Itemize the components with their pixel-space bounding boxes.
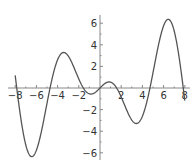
y-tick-label: 2 <box>91 61 97 72</box>
x-tick-label: −2 <box>71 90 86 101</box>
y-tick-label: 6 <box>91 18 97 29</box>
y-tick-label: 4 <box>91 40 97 51</box>
x-tick-label: 6 <box>160 90 166 101</box>
y-tick-label: −6 <box>82 148 97 159</box>
y-tick-label: −2 <box>82 105 97 116</box>
x-tick-label: −4 <box>50 90 65 101</box>
x-tick-label: 4 <box>139 90 145 101</box>
x-ticks: −8−6−4−22468 <box>8 85 188 101</box>
x-tick-label: −6 <box>29 90 44 101</box>
axes: −8−6−4−22468 −6−4−2246 <box>8 15 190 160</box>
y-tick-label: −4 <box>82 126 97 137</box>
function-plot: −8−6−4−22468 −6−4−2246 <box>0 0 192 165</box>
x-tick-label: −8 <box>8 90 23 101</box>
